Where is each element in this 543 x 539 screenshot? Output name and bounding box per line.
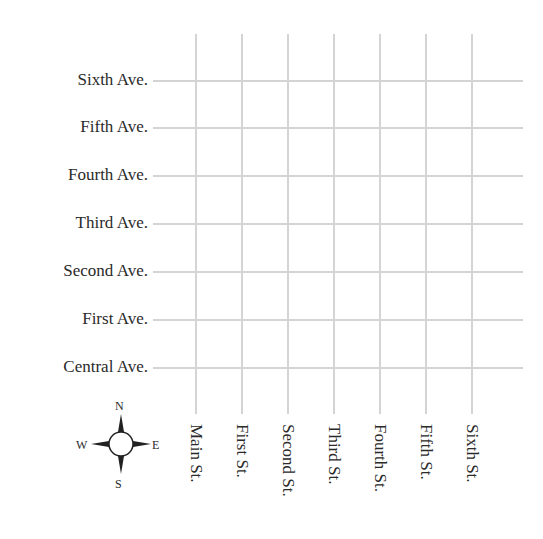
avenue-line xyxy=(153,127,523,129)
avenue-line xyxy=(153,80,523,82)
street-label: Sixth St. xyxy=(462,424,482,483)
avenue-label: Fourth Ave. xyxy=(68,165,148,185)
street-label: Second St. xyxy=(278,424,298,497)
avenue-label: Third Ave. xyxy=(76,213,148,233)
avenue-line xyxy=(153,223,523,225)
avenue-label: Fifth Ave. xyxy=(80,117,148,137)
avenue-line xyxy=(153,175,523,177)
compass-rose: N S W E xyxy=(76,396,166,496)
street-label: Third St. xyxy=(324,424,344,484)
compass-south-label: S xyxy=(115,478,122,490)
compass-west-label: W xyxy=(76,439,87,451)
avenue-line xyxy=(153,367,523,369)
avenue-label: Second Ave. xyxy=(63,261,148,281)
avenue-label: Central Ave. xyxy=(63,357,148,377)
compass-icon xyxy=(89,412,153,476)
avenue-line xyxy=(153,319,523,321)
compass-east-label: E xyxy=(152,439,159,451)
avenue-label: First Ave. xyxy=(82,309,148,329)
street-label: Fourth St. xyxy=(370,424,390,492)
avenue-line xyxy=(153,271,523,273)
street-label: Main St. xyxy=(186,424,206,483)
street-label: First St. xyxy=(232,424,252,478)
compass-north-label: N xyxy=(115,400,124,412)
street-label: Fifth St. xyxy=(416,424,436,480)
avenue-label: Sixth Ave. xyxy=(77,70,148,90)
